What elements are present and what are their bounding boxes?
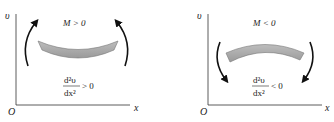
beam-concave-up bbox=[38, 41, 118, 58]
fraction-denominator: dx² bbox=[253, 88, 265, 98]
y-axis-label: υ bbox=[5, 10, 10, 21]
x-axis-label: x bbox=[133, 102, 139, 113]
moment-arrow-left-icon bbox=[217, 42, 226, 80]
x-axis-label: x bbox=[324, 102, 330, 113]
curvature-relation: > 0 bbox=[82, 81, 94, 91]
curvature-expression: d²υ dx² > 0 bbox=[63, 75, 94, 98]
beam-concave-down bbox=[226, 45, 304, 63]
diagram-canvas: υ x O M > 0 d²υ dx² > 0 υ x O M < 0 d² bbox=[0, 0, 334, 122]
fraction-numerator: d²υ bbox=[64, 75, 76, 85]
origin-label: O bbox=[8, 106, 15, 117]
curvature-relation: < 0 bbox=[271, 81, 283, 91]
fraction-denominator: dx² bbox=[64, 88, 76, 98]
origin-label: O bbox=[200, 106, 207, 117]
moment-arrow-right-icon bbox=[117, 22, 128, 66]
moment-arrow-left-icon bbox=[25, 22, 36, 66]
moment-arrow-right-icon bbox=[304, 42, 313, 80]
moment-condition: M < 0 bbox=[252, 18, 276, 28]
panel-positive-moment: υ x O M > 0 d²υ dx² > 0 bbox=[5, 10, 139, 117]
fraction-numerator: d²υ bbox=[253, 75, 265, 85]
panel-negative-moment: υ x O M < 0 d²υ dx² < 0 bbox=[197, 10, 330, 117]
curvature-expression: d²υ dx² < 0 bbox=[252, 75, 283, 98]
moment-condition: M > 0 bbox=[62, 18, 86, 28]
y-axis-label: υ bbox=[197, 10, 202, 21]
